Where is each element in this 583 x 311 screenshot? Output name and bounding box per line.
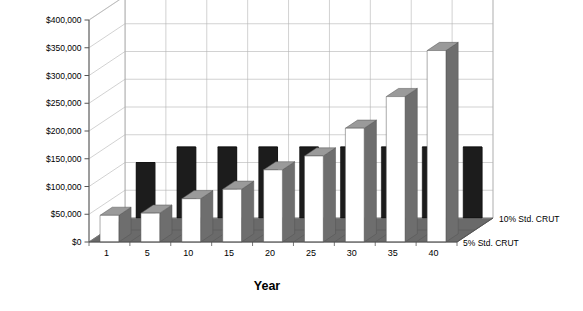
bar-side-face [282,162,294,242]
bar-front-face [427,51,446,242]
bar-side-face [405,88,417,242]
bar-side-face [242,181,254,242]
bar-front-face [182,199,201,242]
left-wall [89,0,125,242]
x-axis-label: 40 [429,248,439,258]
bar-front-face [463,147,482,218]
bar [223,181,254,242]
y-axis-label: $250,000 [46,98,82,108]
bar [345,120,376,242]
bar-front-face [141,213,160,242]
bar-front-face [304,156,323,242]
bar [427,42,458,242]
bar [264,162,295,242]
x-axis-title: Year [254,279,281,293]
bar-side-face [323,148,335,242]
bar [182,191,213,242]
bar-side-face [364,120,376,242]
y-axis-label: $300,000 [46,71,82,81]
y-axis-label: $400,000 [46,15,82,25]
x-axis-label: 25 [306,248,316,258]
chart-container: $0$50,000$100,000$150,000$200,000$250,00… [0,0,583,311]
y-axis-label: $100,000 [46,182,82,192]
bar-side-face [446,42,458,242]
bar-side-face [201,191,213,242]
bar [141,205,172,242]
x-axis-label: 30 [347,248,357,258]
bar [100,207,131,242]
bar [386,88,417,242]
series-axis-label: 5% Std. CRUT [463,238,519,248]
series-axis-label: 10% Std. CRUT [499,214,559,224]
y-axis-label: $200,000 [46,126,82,136]
bar-front-face [386,97,405,242]
y-axis-label: $50,000 [51,209,82,219]
x-axis-label: 5 [145,248,150,258]
x-axis-label: 35 [388,248,398,258]
bar-front-face [223,189,242,242]
x-axis-label: 20 [265,248,275,258]
x-axis-label: 10 [183,248,193,258]
bar [463,147,482,218]
y-axis-label: $0 [72,237,82,247]
bar-front-face [264,170,283,242]
bar [304,148,335,242]
bar-front-face [345,128,364,242]
y-axis-label: $350,000 [46,43,82,53]
bar-chart-3d: $0$50,000$100,000$150,000$200,000$250,00… [0,0,583,311]
y-axis-label: $150,000 [46,154,82,164]
x-axis-label: 15 [224,248,234,258]
x-axis-label: 1 [104,248,109,258]
bar-front-face [100,215,119,242]
